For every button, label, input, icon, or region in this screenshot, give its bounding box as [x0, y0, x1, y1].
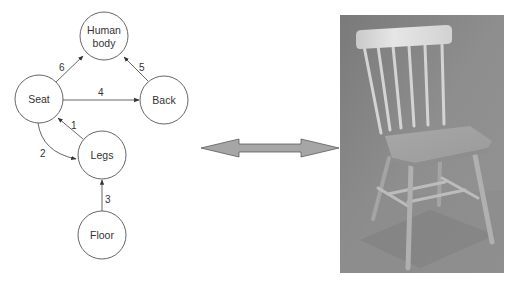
- edge-label-3: 3: [105, 194, 111, 205]
- node-human-body: Human body: [80, 12, 128, 60]
- node-label-back: Back: [152, 94, 176, 106]
- node-legs: Legs: [78, 131, 126, 179]
- node-label-floor: Floor: [90, 229, 114, 241]
- node-label-human: Human: [87, 24, 121, 36]
- double-arrow-icon: [201, 139, 339, 157]
- node-seat: Seat: [15, 75, 63, 123]
- node-label-seat: Seat: [28, 93, 50, 105]
- edge-label-2: 2: [40, 148, 46, 159]
- edge-label-1: 1: [71, 120, 77, 131]
- node-label-legs: Legs: [91, 149, 114, 161]
- node-label-body: body: [93, 37, 117, 49]
- graph-nodes: Human body Seat Back Legs Floor: [15, 12, 188, 259]
- node-back: Back: [140, 76, 188, 124]
- edge-label-4: 4: [98, 87, 104, 98]
- edge-label-6: 6: [59, 62, 65, 73]
- diagram-canvas: 6 5 4 1 2 3 Human body Seat Back Legs Fl…: [0, 0, 516, 284]
- edge-label-5: 5: [139, 62, 145, 73]
- node-floor: Floor: [78, 211, 126, 259]
- chair-photo: [340, 15, 504, 273]
